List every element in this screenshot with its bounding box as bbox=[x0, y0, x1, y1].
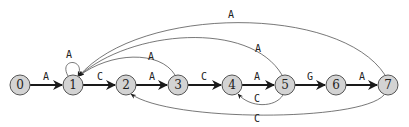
label-edge-3-1: A bbox=[148, 51, 154, 62]
state-node-1: 1 bbox=[63, 75, 83, 95]
label-edge-7-1: A bbox=[228, 9, 234, 20]
state-node-0: 0 bbox=[10, 75, 30, 95]
state-label: 3 bbox=[174, 78, 182, 92]
state-node-4: 4 bbox=[222, 75, 242, 95]
self-loop-1 bbox=[66, 63, 80, 77]
label-edge-4-5: A bbox=[254, 71, 260, 82]
automaton-diagram: A C A C A G A A A A A C C 0 1 2 3 4 5 6 … bbox=[0, 0, 409, 127]
label-edge-2-3: A bbox=[149, 71, 155, 82]
state-label: 2 bbox=[122, 78, 130, 92]
label-edge-6-7: A bbox=[359, 71, 365, 82]
state-node-3: 3 bbox=[168, 75, 188, 95]
label-edge-3-4: C bbox=[201, 71, 207, 82]
state-node-5: 5 bbox=[275, 75, 295, 95]
edge-3-1 bbox=[79, 57, 175, 76]
state-label: 0 bbox=[16, 78, 24, 92]
label-edge-1-2: C bbox=[97, 71, 103, 82]
label-edge-5-4: C bbox=[254, 93, 260, 104]
label-edge-5-1: A bbox=[255, 43, 261, 54]
label-edge-5-6: G bbox=[307, 71, 313, 82]
state-label: 7 bbox=[384, 78, 392, 92]
edge-5-1 bbox=[79, 38, 282, 76]
label-self-loop-1: A bbox=[66, 49, 72, 60]
state-node-6: 6 bbox=[326, 75, 346, 95]
back-edges bbox=[66, 23, 385, 116]
state-label: 6 bbox=[332, 78, 340, 92]
state-label: 5 bbox=[281, 78, 289, 92]
state-node-2: 2 bbox=[116, 75, 136, 95]
state-label: 1 bbox=[69, 78, 77, 92]
state-label: 4 bbox=[228, 78, 236, 92]
label-edge-0-1: A bbox=[43, 71, 49, 82]
edge-5-4 bbox=[238, 94, 283, 105]
state-node-7: 7 bbox=[378, 75, 398, 95]
label-edge-7-2: C bbox=[254, 113, 260, 124]
